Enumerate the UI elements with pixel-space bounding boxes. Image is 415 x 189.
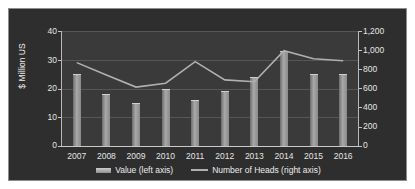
legend-item-number-of-heads[interactable]: Number of Heads (right axis) bbox=[191, 165, 321, 175]
y-axis-title: $ Million US bbox=[17, 35, 27, 97]
line-swatch-icon bbox=[191, 169, 208, 171]
x-axis-tick-label: 2010 bbox=[151, 150, 181, 163]
bar-swatch-icon bbox=[96, 168, 111, 173]
left-tick-label: 30 bbox=[48, 56, 57, 65]
tick-mark bbox=[359, 31, 362, 32]
x-axis-tick-label: 2008 bbox=[92, 150, 122, 163]
x-axis-tick-label: 2016 bbox=[328, 150, 358, 163]
tick-mark bbox=[58, 89, 61, 90]
x-axis-tick-label: 2009 bbox=[121, 150, 151, 163]
legend-label: Number of Heads (right axis) bbox=[212, 165, 321, 175]
chart-container: $ Million US 40 30 20 10 0 1,200 1,000 8… bbox=[8, 8, 407, 181]
x-axis-tick-label: 2014 bbox=[269, 150, 299, 163]
chart-legend: Value (left axis) Number of Heads (right… bbox=[9, 165, 408, 175]
right-tick-label: 1,200 bbox=[363, 27, 384, 36]
x-axis-line bbox=[61, 146, 359, 147]
right-tick-label: 800 bbox=[363, 65, 377, 74]
right-tick-label: 0 bbox=[363, 141, 368, 150]
x-axis-labels: 2007200820092010201120122013201420152016 bbox=[62, 150, 358, 163]
x-axis-tick-label: 2007 bbox=[62, 150, 92, 163]
left-tick-label: 0 bbox=[52, 141, 57, 150]
right-tick-label: 400 bbox=[363, 103, 377, 112]
left-tick-label: 20 bbox=[48, 84, 57, 93]
line-series bbox=[62, 31, 358, 146]
tick-mark bbox=[359, 50, 362, 51]
left-tick-label: 40 bbox=[48, 27, 57, 36]
tick-mark bbox=[58, 146, 61, 147]
legend-label: Value (left axis) bbox=[115, 165, 173, 175]
right-tick-label: 1,000 bbox=[363, 46, 384, 55]
x-axis-tick-label: 2011 bbox=[180, 150, 210, 163]
plot-area bbox=[62, 31, 358, 146]
tick-mark bbox=[58, 117, 61, 118]
right-tick-label: 600 bbox=[363, 84, 377, 93]
tick-mark bbox=[359, 127, 362, 128]
tick-mark bbox=[359, 107, 362, 108]
tick-mark bbox=[58, 31, 61, 32]
left-tick-label: 10 bbox=[48, 113, 57, 122]
x-axis-tick-label: 2015 bbox=[299, 150, 329, 163]
tick-mark bbox=[359, 88, 362, 89]
tick-mark bbox=[359, 69, 362, 70]
x-axis-tick-label: 2012 bbox=[210, 150, 240, 163]
right-axis-line bbox=[358, 31, 359, 147]
legend-item-value[interactable]: Value (left axis) bbox=[96, 165, 173, 175]
tick-mark bbox=[58, 60, 61, 61]
x-axis-tick-label: 2013 bbox=[240, 150, 270, 163]
right-tick-label: 200 bbox=[363, 122, 377, 131]
tick-mark bbox=[359, 146, 362, 147]
